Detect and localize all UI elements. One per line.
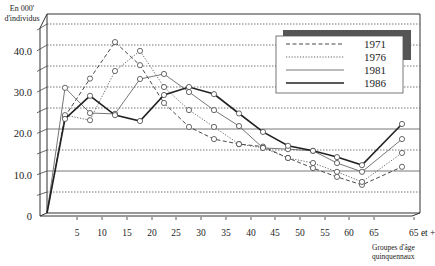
y-tick-label: 40.0	[14, 46, 32, 57]
x-tick-label: 50	[295, 228, 305, 238]
data-point-marker	[137, 76, 142, 81]
data-point-marker	[186, 124, 191, 129]
x-tick-label: 20	[147, 228, 157, 238]
data-point-marker	[186, 89, 191, 94]
y-axis-title-line1: En 000'	[10, 4, 35, 13]
x-axis-title-line1: Groupes d'âge	[372, 243, 415, 252]
data-point-marker	[112, 39, 117, 44]
data-point-marker	[260, 129, 265, 134]
data-point-marker	[260, 145, 265, 150]
y-tick-label: 10.0	[14, 170, 32, 181]
data-point-marker	[211, 136, 216, 141]
x-tick-label: 60	[344, 228, 354, 238]
data-point-marker	[137, 63, 142, 68]
data-point-marker	[137, 118, 142, 123]
data-point-marker	[285, 155, 290, 160]
y-tick-label: 30.0	[14, 87, 32, 98]
legend-label-1981: 1981	[364, 64, 386, 76]
data-point-marker	[211, 108, 216, 113]
data-point-marker	[112, 113, 117, 118]
x-tick-label: 10	[97, 228, 107, 238]
data-point-marker	[359, 179, 364, 184]
data-point-marker	[87, 93, 92, 98]
x-tick-label: 25	[171, 228, 181, 238]
data-point-marker	[236, 111, 241, 116]
x-tick-label: 65	[369, 228, 379, 238]
data-point-marker	[236, 142, 241, 147]
x-tick-label: 40	[246, 228, 256, 238]
data-point-marker	[310, 165, 315, 170]
data-point-marker	[236, 123, 241, 128]
y-axis-title-line2: d'individus	[4, 14, 39, 23]
data-point-marker	[359, 169, 364, 174]
x-tick-label: 45	[270, 228, 280, 238]
data-point-marker	[62, 85, 67, 90]
population-line-chart: 010.020.030.040.051015202530354045505560…	[0, 0, 435, 266]
data-point-marker	[310, 160, 315, 165]
data-point-marker	[399, 136, 404, 141]
data-point-marker	[399, 121, 404, 126]
data-point-marker	[211, 92, 216, 97]
data-point-marker	[285, 143, 290, 148]
data-point-marker	[334, 174, 339, 179]
data-point-marker	[87, 110, 92, 115]
data-point-marker	[211, 124, 216, 129]
legend: 1971197619811986	[276, 30, 411, 93]
y-tick-label: 0	[27, 211, 32, 222]
data-point-marker	[399, 150, 404, 155]
data-point-marker	[161, 84, 166, 89]
data-point-marker	[161, 92, 166, 97]
legend-label-1986: 1986	[364, 77, 387, 89]
data-point-marker	[161, 100, 166, 105]
data-point-marker	[186, 108, 191, 113]
data-point-marker	[310, 148, 315, 153]
data-point-marker	[161, 71, 166, 76]
data-point-marker	[137, 48, 142, 53]
x-axis-title-line2: quinquennaux	[372, 252, 415, 261]
x-tick-label: 5	[75, 228, 80, 238]
y-tick-label: 20.0	[14, 128, 32, 139]
legend-label-1971: 1971	[364, 38, 386, 50]
x-tick-label: 55	[320, 228, 330, 238]
x-tick-label: 65 et +	[409, 228, 435, 238]
data-point-marker	[334, 160, 339, 165]
data-point-marker	[62, 116, 67, 121]
data-point-marker	[399, 164, 404, 169]
x-tick-label: 35	[221, 228, 231, 238]
data-point-marker	[112, 68, 117, 73]
data-point-marker	[359, 163, 364, 168]
legend-label-1976: 1976	[364, 51, 387, 63]
data-point-marker	[334, 155, 339, 160]
data-point-marker	[186, 84, 191, 89]
series-1986	[47, 84, 405, 213]
data-point-marker	[334, 169, 339, 174]
data-point-marker	[87, 76, 92, 81]
x-tick-label: 15	[122, 228, 132, 238]
x-tick-label: 30	[196, 228, 206, 238]
data-point-marker	[87, 118, 92, 123]
